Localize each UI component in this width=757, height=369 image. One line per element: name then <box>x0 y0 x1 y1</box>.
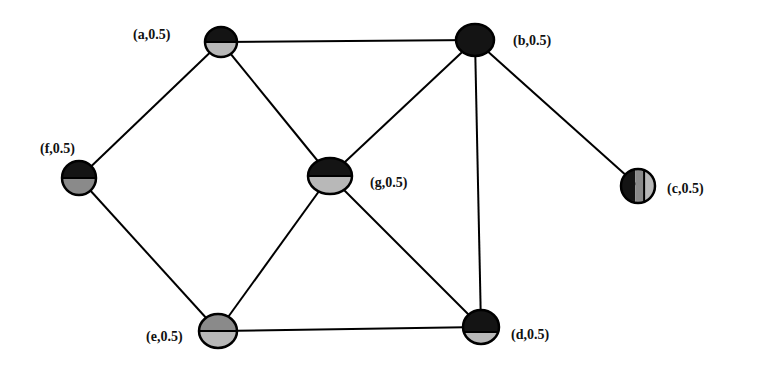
node-label-d: (d,0.5) <box>511 328 549 342</box>
edge-g-e <box>218 176 330 331</box>
edge-a-b <box>221 40 475 42</box>
node-e <box>199 314 237 348</box>
edge-a-g <box>221 42 330 176</box>
node-label-e: (e,0.5) <box>146 330 183 344</box>
node-c <box>621 169 655 203</box>
edge-e-d <box>218 327 481 331</box>
node-label-b: (b,0.5) <box>513 34 551 48</box>
node-a <box>205 27 237 57</box>
node-label-c: (c,0.5) <box>667 182 704 196</box>
node-label-f: (f,0.5) <box>40 142 75 156</box>
node-g <box>308 158 352 194</box>
edge-b-c <box>475 40 638 186</box>
edge-b-g <box>330 40 475 176</box>
edge-g-d <box>330 176 481 327</box>
node-d <box>463 310 499 344</box>
node-label-g: (g,0.5) <box>370 176 407 190</box>
node-b <box>456 24 494 56</box>
edge-a-f <box>79 42 221 178</box>
node-f <box>62 161 96 195</box>
edges-layer <box>79 40 638 331</box>
edge-f-e <box>79 178 218 331</box>
nodes-layer <box>62 24 655 348</box>
edge-b-d <box>475 40 481 327</box>
node-label-a: (a,0.5) <box>133 28 170 42</box>
